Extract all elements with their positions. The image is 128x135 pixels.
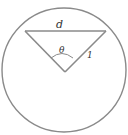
circle-chord-diagram: d θ 1 [0,0,128,135]
angle-label: θ [59,45,65,55]
diagram-svg: d θ 1 [0,0,128,135]
chord-label: d [56,18,63,31]
radius-label: 1 [87,50,93,60]
radius-right [65,31,106,72]
